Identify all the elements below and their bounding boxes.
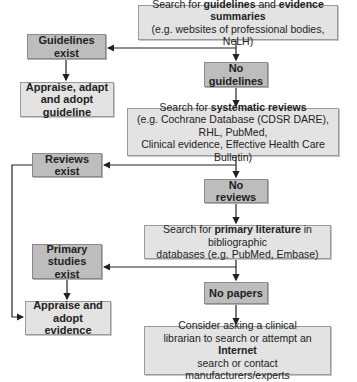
guidelines-exist-label: Guidelines exist <box>31 34 102 59</box>
appraise-guideline-line1: Appraise, adapt <box>26 81 109 93</box>
internet-keyword: Internet <box>218 344 257 356</box>
no-papers-box: No papers <box>204 282 268 304</box>
consider-line2: librarian to search or attempt an <box>163 332 311 344</box>
appraise-evidence-line2: adopt evidence <box>44 312 91 337</box>
search-primary-text: Search for <box>163 223 214 235</box>
consider-line1: Consider asking a clinical <box>178 319 296 331</box>
no-guidelines-box: No guidelines <box>204 62 268 87</box>
primary-exist-line1: Primary <box>47 243 88 255</box>
search-reviews-examples-2: Clinical evidence, Effective Health Care… <box>141 138 325 163</box>
search-primary-box: Search for primary literature in bibliog… <box>144 225 331 259</box>
appraise-evidence-box: Appraise and adopt evidence <box>25 301 111 335</box>
search-guidelines-mid: and <box>255 0 278 10</box>
guidelines-exist-box: Guidelines exist <box>27 34 106 59</box>
primary-studies-exist-box: Primary studies exist <box>32 244 102 279</box>
reviews-exist-label: Reviews exist <box>36 153 98 178</box>
search-guidelines-examples: (e.g. websites of professional bodies, N… <box>152 23 325 48</box>
no-papers-label: No papers <box>209 287 263 300</box>
search-guidelines-box: Search for guidelines and evidence summa… <box>138 5 338 40</box>
guidelines-keyword: guidelines <box>204 0 256 10</box>
appraise-guideline-box: Appraise, adapt and adopt guideline <box>20 82 114 117</box>
search-reviews-box: Search for systematic reviews (e.g. Coch… <box>127 108 339 156</box>
appraise-evidence-line1: Appraise and <box>33 299 103 311</box>
no-guidelines-label: No guidelines <box>208 62 264 87</box>
primary-exist-line2: studies exist <box>48 255 87 280</box>
search-primary-examples: databases (e.g. PubMed, Embase) <box>156 248 318 260</box>
systematic-reviews-keyword: systematic reviews <box>211 101 307 113</box>
appraise-guideline-line2: and adopt guideline <box>41 93 94 118</box>
consider-line3: search or contact manufacturers/experts <box>185 357 289 382</box>
no-reviews-box: No reviews <box>204 179 268 203</box>
no-reviews-label: No reviews <box>208 179 264 204</box>
consider-librarian-box: Consider asking a clinical librarian to … <box>144 326 331 375</box>
reviews-exist-box: Reviews exist <box>32 153 102 177</box>
search-guidelines-text: Search for <box>152 0 203 10</box>
search-reviews-examples-1: (e.g. Cochrane Database (CDSR DARE), RHL… <box>137 113 329 138</box>
primary-literature-keyword: primary literature <box>214 223 300 235</box>
search-reviews-text: Search for <box>159 101 210 113</box>
